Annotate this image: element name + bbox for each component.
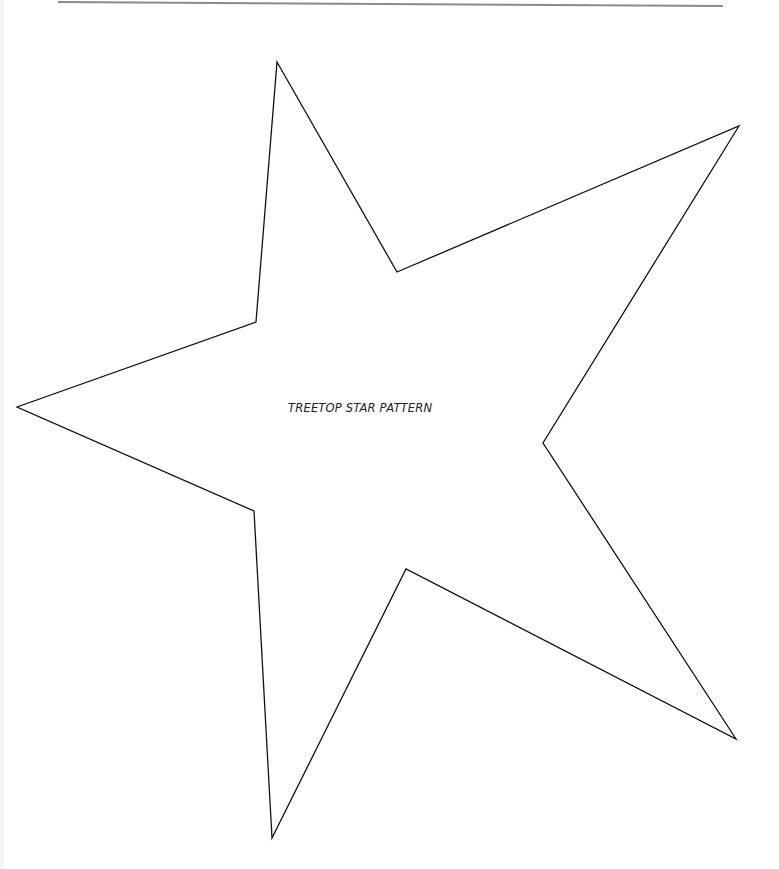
star-outline — [17, 62, 739, 838]
header-rule — [58, 2, 723, 6]
star-pattern-artwork — [0, 0, 779, 869]
pattern-page: TREETOP STAR PATTERN — [0, 0, 779, 869]
pattern-title: TREETOP STAR PATTERN — [288, 401, 432, 415]
